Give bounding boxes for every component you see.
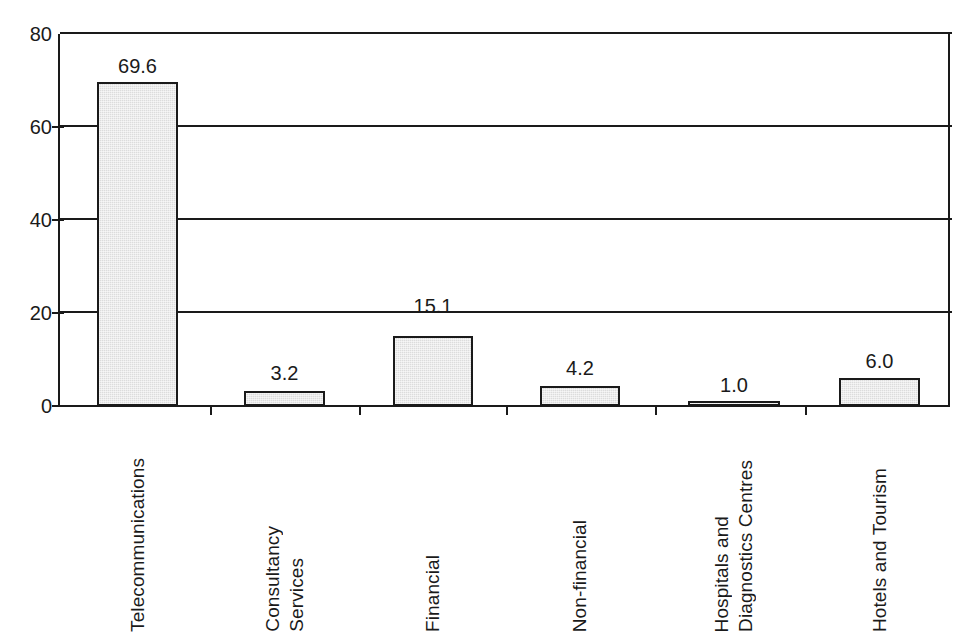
x-category-label-line: Hospitals and (711, 516, 733, 632)
gridline-60 (60, 125, 952, 127)
gridline-80 (60, 32, 952, 34)
x-category-telecommunications: Telecommunications (98, 422, 178, 632)
x-tick-mark-1 (210, 406, 212, 415)
x-category-label-line: Telecommunications (127, 458, 149, 632)
bar-value-telecommunications: 69.6 (97, 56, 178, 76)
gridline-40 (60, 218, 952, 220)
x-tick-mark-2 (359, 406, 361, 415)
bar-value-financial: 15.1 (393, 296, 473, 316)
y-tick-label-20: 20 (6, 303, 52, 323)
y-tick-label-0: 0 (6, 396, 52, 416)
bar-hospitals-and-diagnostics-centres[interactable] (688, 401, 780, 406)
gridline-20 (60, 311, 952, 313)
x-tick-mark-3 (506, 406, 508, 415)
bar-value-consultancy-services: 3.2 (244, 363, 325, 383)
x-category-financial: Financial (393, 422, 473, 632)
y-tick-label-40: 40 (6, 210, 52, 230)
plot-area (58, 34, 950, 406)
bar-value-non-financial: 4.2 (540, 358, 620, 378)
x-tick-mark-5 (805, 406, 807, 415)
x-category-label-line: Consultancy (262, 526, 284, 632)
y-tick-label-80: 80 (6, 24, 52, 44)
bar-value-hotels-and-tourism: 6.0 (839, 351, 920, 371)
x-category-label-line: Services (286, 558, 308, 632)
x-category-label-line: Diagnostics Centres (735, 460, 757, 632)
bar-consultancy-services[interactable] (244, 391, 325, 406)
x-category-consultancy-services: Consultancy Services (245, 422, 325, 632)
x-category-label-line: Non-financial (569, 520, 591, 632)
bar-financial[interactable] (393, 336, 473, 406)
axis-baseline (58, 405, 950, 407)
bar-hotels-and-tourism[interactable] (839, 378, 920, 406)
x-category-label-line: Hotels and Tourism (869, 468, 891, 632)
x-category-hospitals-and-diagnostics-centres: Hospitals and Diagnostics Centres (688, 422, 780, 632)
x-category-label-line: Financial (422, 555, 444, 632)
bar-non-financial[interactable] (540, 386, 620, 406)
bar-chart: 80 60 40 20 0 69.6 3.2 15.1 4.2 1.0 6.0 … (0, 0, 972, 636)
y-axis: 80 60 40 20 0 (0, 0, 52, 636)
bar-telecommunications[interactable] (97, 82, 178, 406)
y-tick-label-60: 60 (6, 117, 52, 137)
x-category-hotels-and-tourism: Hotels and Tourism (840, 422, 920, 632)
bar-value-hospitals-and-diagnostics-centres: 1.0 (688, 375, 780, 395)
x-tick-mark-4 (655, 406, 657, 415)
x-category-non-financial: Non-financial (540, 422, 620, 632)
